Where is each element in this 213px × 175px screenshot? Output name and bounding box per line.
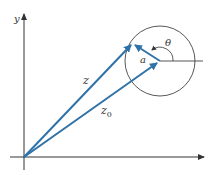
z-label: z [82, 74, 89, 87]
theta-label: θ [165, 37, 171, 48]
vector-z [24, 45, 131, 157]
diagram: y θ z0 z a [0, 0, 213, 175]
z0-label: z0 [100, 104, 112, 119]
a-label: a [140, 54, 146, 65]
vector-z0 [24, 63, 157, 157]
y-axis-label: y [13, 13, 20, 24]
